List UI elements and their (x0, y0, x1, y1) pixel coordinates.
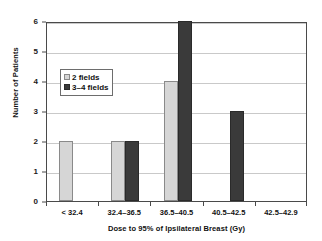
legend-label: 2 fields (72, 73, 100, 82)
legend-swatch (64, 74, 70, 80)
legend-swatch (64, 84, 70, 90)
bar (59, 141, 73, 201)
y-tick-label: 1 (34, 168, 38, 176)
y-tick-label: 3 (34, 108, 38, 116)
gridline (47, 53, 306, 54)
y-axis: 0123456 (0, 22, 46, 202)
x-tick-mark (306, 202, 307, 206)
x-tick-mark (46, 202, 47, 206)
legend-item: 2 fields (64, 72, 108, 82)
x-tick-label: 42.5–42.9 (264, 208, 297, 217)
legend-item: 3–4 fields (64, 82, 108, 92)
x-tick-label: 32.4–36.5 (108, 208, 141, 217)
bar (111, 141, 125, 201)
bar (230, 111, 244, 201)
x-tick-mark (98, 202, 99, 206)
gridline (47, 23, 306, 24)
y-axis-title: Number of Patients (11, 23, 20, 143)
x-tick-mark (255, 202, 256, 206)
y-tick-label: 0 (34, 198, 38, 206)
legend: 2 fields3–4 fields (60, 69, 113, 96)
bar (178, 21, 192, 201)
x-tick-label: < 32.4 (62, 208, 83, 217)
x-tick-mark (150, 202, 151, 206)
x-tick-label: 36.5–40.5 (160, 208, 193, 217)
y-tick-label: 5 (34, 48, 38, 56)
x-tick-mark (203, 202, 204, 206)
bar (125, 141, 139, 201)
y-tick-label: 4 (34, 78, 38, 86)
y-tick-label: 6 (34, 18, 38, 26)
legend-label: 3–4 fields (72, 83, 108, 92)
x-tick-label: 40.5–42.5 (212, 208, 245, 217)
bar (164, 81, 178, 201)
chart-figure: 0123456 Number of Patients 2 fields3–4 f… (0, 0, 322, 241)
y-tick-label: 2 (34, 138, 38, 146)
x-axis-title: Dose to 95% of Ipsilateral Breast (Gy) (46, 224, 307, 233)
plot-area: 2 fields3–4 fields (46, 22, 307, 202)
x-axis: < 32.432.4–36.536.5–40.540.5–42.542.5–42… (46, 202, 307, 218)
